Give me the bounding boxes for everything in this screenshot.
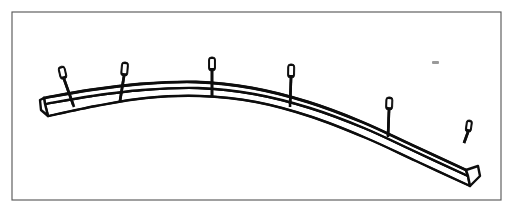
band-bottom-edge-line <box>48 96 470 186</box>
pin-5 <box>386 97 393 136</box>
scan-speck <box>432 61 439 64</box>
pin-5-head-eye <box>387 99 391 107</box>
pin-3-head-icon <box>209 57 216 71</box>
scan-artifacts-group <box>432 61 439 64</box>
pin-2-head-icon <box>121 62 129 77</box>
pin-shafts-group <box>64 71 468 143</box>
pin-4-head-eye <box>289 66 293 75</box>
figure-container: Curved band with inserted needle pins Li… <box>0 0 514 212</box>
technical-line-drawing: Curved band with inserted needle pins Li… <box>0 0 514 212</box>
pin-5-head-icon <box>386 97 393 110</box>
pin-6 <box>464 120 473 143</box>
pin-6-head-icon <box>465 120 473 133</box>
pin-5-upper-shaft <box>388 110 389 136</box>
pin-1-head-icon <box>58 66 68 80</box>
pin-2-head-eye <box>122 64 127 73</box>
pin-6-upper-shaft <box>464 132 468 143</box>
pin-3-head-eye <box>210 59 214 68</box>
pin-4-head-icon <box>288 64 295 78</box>
pin-4-upper-shaft <box>290 78 291 104</box>
